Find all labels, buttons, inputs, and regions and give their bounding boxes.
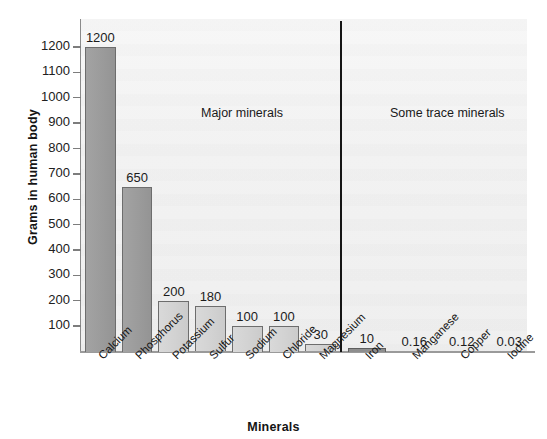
annotation-trace-minerals: Some trace minerals: [390, 106, 505, 120]
bar-value-chloride: 100: [261, 309, 307, 324]
y-tick-200: [73, 300, 81, 301]
y-tick-1000: [73, 97, 81, 98]
y-tick-100: [73, 325, 81, 326]
group-divider-line: [340, 21, 342, 352]
bar-value-sulfur: 180: [188, 289, 234, 304]
annotation-major-minerals: Major minerals: [201, 106, 283, 120]
y-tick-1200: [73, 46, 81, 47]
mineral-bar-chart: Grams in human body 10020030040050060070…: [0, 0, 547, 439]
y-tick-700: [73, 173, 81, 174]
y-tick-400: [73, 249, 81, 250]
x-axis-title: Minerals: [0, 420, 547, 434]
y-axis-title: Grams in human body: [26, 62, 40, 292]
y-tick-500: [73, 224, 81, 225]
y-tick-900: [73, 122, 81, 123]
bar-value-calcium: 1200: [77, 30, 123, 45]
y-tick-1100: [73, 72, 81, 73]
y-tick-300: [73, 275, 81, 276]
bar-value-phosphorus: 650: [114, 170, 160, 185]
y-tick-600: [73, 199, 81, 200]
bar-calcium: [85, 47, 116, 352]
y-tick-800: [73, 148, 81, 149]
